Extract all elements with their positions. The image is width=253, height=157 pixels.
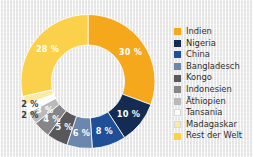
legend-swatch-icon [174, 133, 181, 140]
donut-slice-label: 2 % [21, 110, 38, 120]
legend-item[interactable]: Äthiopien [174, 96, 252, 108]
legend-swatch-icon [174, 86, 181, 93]
chart-legend: IndienNigeriaChinaBangladeschKongoIndone… [174, 26, 252, 142]
legend-item-label: Nigeria [186, 38, 216, 50]
legend-item-label: China [186, 49, 210, 61]
chart-page: 30 %10 %8 %6 %5 %4 %3 %2 %2 %28 % Indien… [0, 0, 253, 157]
legend-swatch-icon [174, 51, 181, 58]
legend-item[interactable]: Madagaskar [174, 119, 252, 131]
legend-item[interactable]: Nigeria [174, 38, 252, 50]
legend-item[interactable]: China [174, 49, 252, 61]
donut-slice[interactable] [88, 15, 155, 105]
legend-item[interactable]: Bangladesch [174, 61, 252, 73]
donut-slice-label: 30 % [119, 47, 142, 57]
legend-swatch-icon [174, 121, 181, 128]
donut-slice-label: 4 % [43, 114, 60, 124]
donut-chart-svg: 30 %10 %8 %6 %5 %4 %3 %2 %2 %28 % [8, 10, 168, 153]
donut-slice-label: 28 % [36, 44, 59, 54]
donut-slice-label: 6 % [73, 128, 90, 138]
legend-swatch-icon [174, 75, 181, 82]
legend-item[interactable]: Kongo [174, 72, 252, 84]
legend-swatch-icon [174, 63, 181, 70]
legend-item-label: Indien [186, 26, 212, 38]
legend-swatch-icon [174, 109, 181, 116]
legend-item-label: Tansania [186, 107, 222, 119]
donut-slice-label: 8 % [96, 126, 113, 136]
legend-item-label: Indonesien [186, 84, 232, 96]
legend-item-label: Äthiopien [186, 96, 226, 108]
donut-slice-label: 10 % [117, 109, 140, 119]
donut-slice[interactable] [21, 15, 88, 97]
legend-swatch-icon [174, 28, 181, 35]
donut-slice-label: 5 % [55, 122, 72, 132]
legend-item[interactable]: Indien [174, 26, 252, 38]
legend-swatch-icon [174, 98, 181, 105]
legend-item-label: Rest der Welt [186, 130, 242, 142]
legend-item-label: Kongo [186, 72, 212, 84]
donut-chart: 30 %10 %8 %6 %5 %4 %3 %2 %2 %28 % [8, 10, 168, 153]
legend-item[interactable]: Tansania [174, 107, 252, 119]
legend-item[interactable]: Indonesien [174, 84, 252, 96]
legend-item-label: Madagaskar [186, 119, 237, 131]
legend-item[interactable]: Rest der Welt [174, 130, 252, 142]
legend-item-label: Bangladesch [186, 61, 240, 73]
donut-slice-label: 2 % [21, 99, 38, 109]
legend-swatch-icon [174, 40, 181, 47]
